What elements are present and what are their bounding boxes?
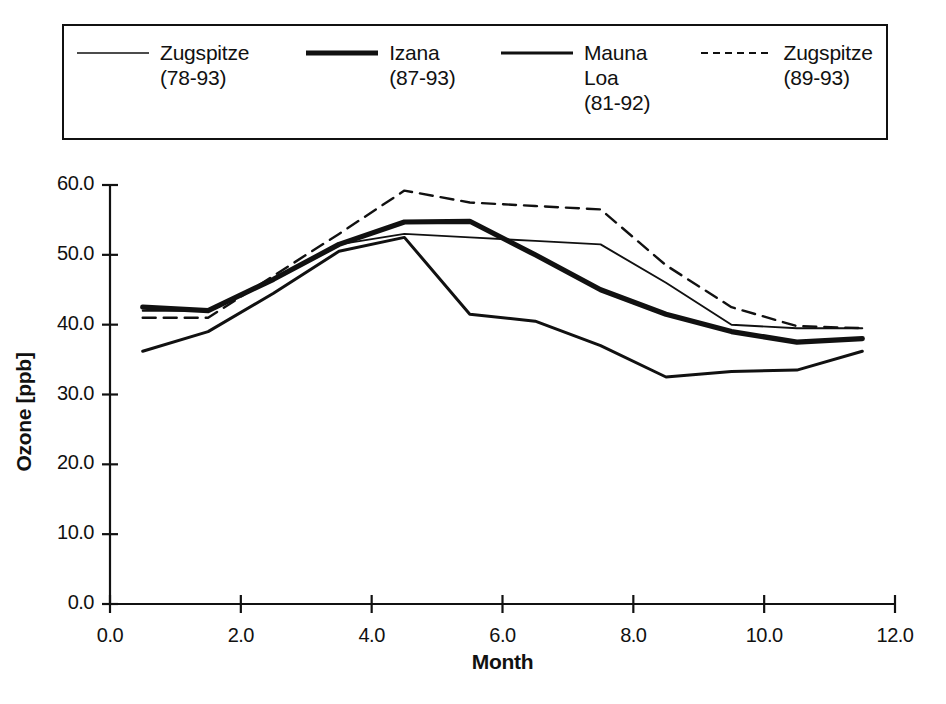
y-tick-label: 0.0 [24, 591, 94, 614]
series-line-1 [143, 221, 863, 342]
legend-swatch-medium-solid-icon [500, 48, 574, 70]
x-tick-label: 12.0 [860, 624, 930, 647]
x-tick-label: 6.0 [468, 624, 538, 647]
legend-item-zugspitze-89-93: Zugspitze (89-93) [700, 40, 876, 90]
chart-series [143, 191, 863, 377]
plot-area: Ozone [ppb] Month 0.010.020.030.040.050.… [0, 150, 946, 704]
x-tick-label: 8.0 [598, 624, 668, 647]
x-tick-label: 2.0 [206, 624, 276, 647]
series-line-2 [143, 237, 863, 377]
legend-label: Izana (87-93) [389, 40, 455, 90]
x-tick-label: 10.0 [729, 624, 799, 647]
y-tick-label: 60.0 [24, 172, 94, 195]
legend-swatch-thick-solid-icon [305, 48, 379, 70]
legend-item-izana-87-93: Izana (87-93) [305, 40, 496, 90]
chart-page: Zugspitze (78-93) Izana (87-93) Mauna Lo… [0, 0, 946, 704]
chart-canvas [0, 150, 946, 704]
y-tick-label: 30.0 [24, 382, 94, 405]
chart-legend: Zugspitze (78-93) Izana (87-93) Mauna Lo… [62, 24, 888, 140]
y-tick-label: 40.0 [24, 312, 94, 335]
legend-label: Zugspitze (89-93) [784, 40, 873, 90]
y-tick-label: 20.0 [24, 451, 94, 474]
y-tick-label: 50.0 [24, 242, 94, 265]
chart-axes [102, 185, 895, 613]
legend-item-mauna-loa-81-92: Mauna Loa (81-92) [500, 40, 696, 115]
legend-item-zugspitze-78-93: Zugspitze (78-93) [76, 40, 301, 90]
legend-label: Zugspitze (78-93) [160, 40, 249, 90]
y-tick-label: 10.0 [24, 521, 94, 544]
legend-swatch-dashed-icon [700, 48, 774, 70]
legend-label: Mauna Loa (81-92) [584, 40, 650, 115]
x-tick-label: 4.0 [337, 624, 407, 647]
x-tick-label: 0.0 [75, 624, 145, 647]
legend-swatch-thin-solid-icon [76, 48, 150, 70]
